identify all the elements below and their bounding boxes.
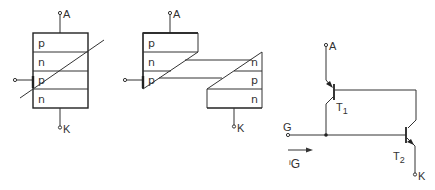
anode-terminal [168, 11, 171, 14]
layer-label: n [38, 56, 45, 69]
t1-emitter-arrow-icon [326, 81, 333, 88]
cathode-label: K [237, 122, 245, 134]
gate-terminal [123, 78, 126, 81]
t2-label: T2 [393, 150, 405, 165]
layer-label: n [38, 93, 45, 106]
layer-label: p [148, 37, 155, 50]
layer-label: n [148, 56, 155, 69]
t1-label: T1 [336, 101, 348, 116]
cathode-terminal [232, 125, 235, 128]
layer-label: n [251, 93, 258, 106]
t1-emitter-lead [326, 47, 331, 87]
thyristor-diagram: A p n p n K A p n p [0, 0, 435, 190]
gate-label: G [283, 121, 292, 133]
layer-label: p [38, 37, 45, 50]
figure-four-layer: A p n p n K [13, 8, 104, 135]
layer-label: p [148, 74, 155, 87]
layer-label: n [251, 56, 258, 69]
layer-label: p [251, 74, 258, 87]
junction-dot [324, 133, 328, 137]
cathode-label: K [63, 123, 71, 135]
figure-equivalent-circuit: A T1 G K T2 iG [283, 40, 426, 182]
cathode-terminal [58, 126, 61, 129]
gate-current-label: iG [289, 157, 300, 171]
figure-split: A p n p n p n K [123, 8, 262, 134]
anode-terminal [58, 11, 61, 14]
anode-label: A [329, 40, 337, 52]
gate-terminal [286, 133, 289, 136]
gate-terminal [13, 78, 16, 81]
anode-terminal [324, 43, 327, 46]
t1-collector-lead [326, 96, 334, 135]
cathode-terminal [413, 173, 416, 176]
anode-label: A [63, 8, 71, 20]
anode-label: A [173, 8, 181, 20]
arrow-head-icon [306, 148, 313, 153]
cathode-label: K [418, 170, 426, 182]
t2-emitter-arrow-icon [407, 139, 414, 145]
